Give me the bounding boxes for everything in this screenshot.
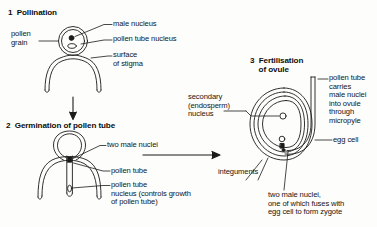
stage3-label-secondary-nucleus: secondary (endosperm) nucleus [188,93,230,119]
stage1-label-male-nucleus: male nucleus [113,20,157,29]
stage2-label-pollen-tube: pollen tube [111,167,147,176]
stage3-ovule-shape [250,88,312,160]
stage3-label-integuments: integuments [218,168,258,177]
stage3-egg-cell-circle [279,136,285,142]
stage3-secondary-nucleus-circle [280,113,286,119]
stage2-pollen-grain-shape [54,131,86,160]
stage3-heading: 3 Fertilisation of ovule [250,56,303,75]
stage1-label-pollen-tube-nucleus: pollen tube nucleus [113,35,177,44]
stage2-heading: 2 Germination of pollen tube [6,121,115,130]
stage1-pollen-grain-shape [59,27,88,56]
arrow-stage1-to-stage2 [70,97,77,120]
figure-canvas: 1 Pollination pollen grain male nucleus … [0,0,377,227]
stage3-label-two-male-nuclei-zygote: two male nuclei, one of which fuses with… [268,191,344,217]
arrow-stage2-to-stage3 [143,151,220,158]
stage3-label-egg-cell: egg cell [333,136,358,145]
stage3-male-nucleus-dot [282,149,285,152]
stage3-two-male-nuclei-mark [280,144,284,149]
stage1-label-pollen-grain: pollen grain [11,30,31,47]
stage1-label-surface-of-stigma: surface of stigma [113,51,143,68]
stage2-label-two-male-nuclei: two male nuclei [107,141,158,150]
stage1-male-nucleus-dot [69,36,74,41]
stage1-stigma-surface [45,55,101,92]
stage1-heading: 1 Pollination [8,8,57,17]
stage2-pollen-tube-nucleus-oval [68,185,72,192]
stage2-two-male-nuclei-mark [68,157,72,162]
stage3-label-pollen-tube-carries: pollen tube carries male nuclei into ovu… [329,74,366,126]
stage1-pollen-tube-nucleus-oval [68,44,76,49]
stage2-leader-lines [72,146,110,189]
stage2-stigma-surface [38,157,101,200]
stage2-label-pollen-tube-nucleus: pollen tube nucleus (controls growth of … [111,181,191,207]
